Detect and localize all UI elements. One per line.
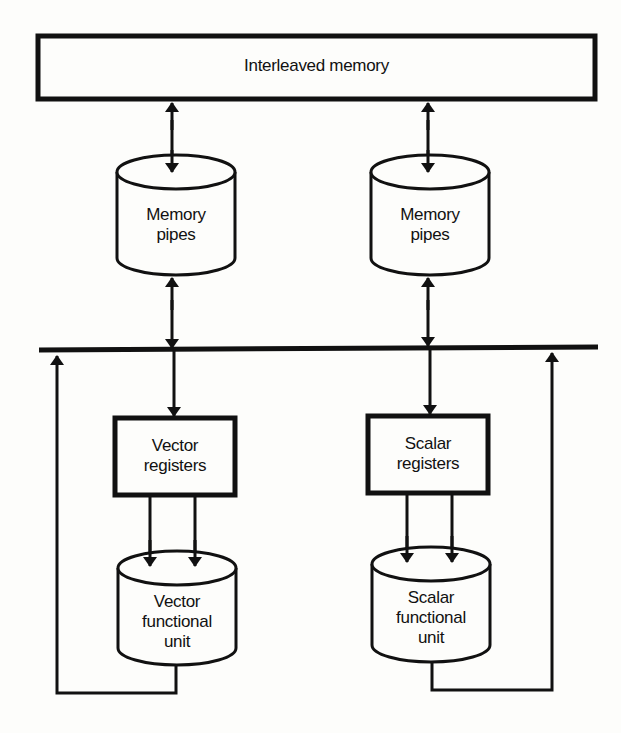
right-memory-pipes-label: Memory pipes — [371, 205, 489, 245]
interleaved-memory-label: Interleaved memory — [38, 56, 595, 76]
scalar-registers-label: Scalar registers — [368, 434, 488, 474]
vector-functional-unit-label: Vector functional unit — [118, 592, 236, 652]
vector-registers-label: Vector registers — [115, 436, 235, 476]
diagram-canvas — [0, 0, 621, 733]
scalar-functional-unit-label: Scalar functional unit — [372, 588, 490, 648]
data-bus — [39, 347, 598, 350]
left-memory-pipes-label: Memory pipes — [117, 205, 235, 245]
